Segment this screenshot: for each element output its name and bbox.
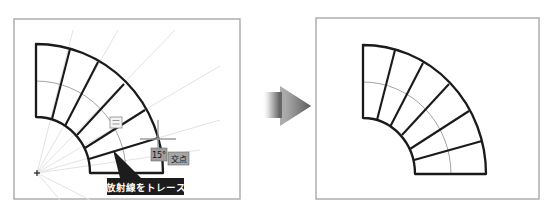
angle-badge-label: 15° (152, 151, 166, 160)
snap-marker-icon (110, 117, 122, 128)
before-panel: 15° 交点 放射線をトレース (14, 19, 240, 200)
diagram-canvas: 15° 交点 放射線をトレース (0, 0, 553, 214)
intersection-badge: 交点 (168, 152, 189, 165)
callout-label: 放射線をトレース (105, 182, 186, 193)
intersection-badge-label: 交点 (171, 154, 187, 164)
transition-arrow-icon (262, 86, 311, 126)
after-panel (316, 18, 539, 199)
angle-badge: 15° (151, 148, 167, 161)
